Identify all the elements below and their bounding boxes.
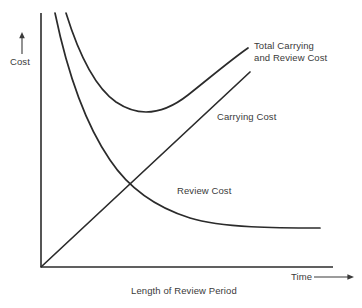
- x-axis-arrow-label: Time: [291, 271, 312, 283]
- total-cost-label-line-2: and Review Cost: [254, 52, 327, 63]
- x-axis-arrow-icon: [314, 274, 354, 280]
- series-label-review-cost: Review Cost: [177, 185, 231, 197]
- total-cost-label-line-1: Total Carrying: [254, 40, 314, 51]
- series-total-carrying-and-review-cost: [66, 13, 248, 112]
- y-axis-label: Cost: [10, 56, 30, 68]
- series-label-carrying-cost: Carrying Cost: [217, 111, 276, 123]
- x-axis-title: Length of Review Period: [131, 285, 237, 297]
- cost-vs-review-period-chart: Total Carryingand Review Cost Carrying C…: [0, 0, 362, 308]
- y-axis-arrow-icon: [19, 32, 25, 54]
- series-carrying-cost: [41, 72, 250, 267]
- series-label-total-carrying-and-review-cost: Total Carryingand Review Cost: [254, 40, 327, 64]
